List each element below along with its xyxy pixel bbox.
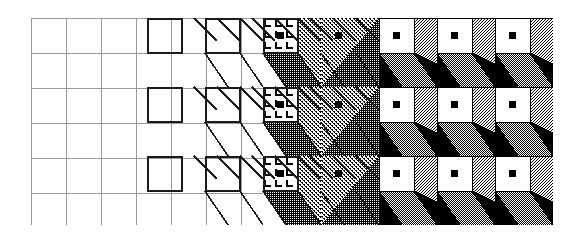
face-center-dot [451,170,458,177]
bold-square-outline [148,88,182,122]
face-center-dot [393,32,400,39]
depth-diagonal [240,122,263,156]
face-center-dot [277,170,284,177]
stage-block-solid-cube-c [495,87,553,156]
face-center-dot [335,101,342,108]
depth-diagonal [240,18,263,41]
progression-row-row-top [148,18,554,87]
face-center-dot [335,170,342,177]
stage-block-wireframe-square [148,157,182,191]
depth-diagonal [217,87,240,110]
depth-diagonal [240,53,263,87]
stage-block-hatched-face [252,87,321,156]
stage-block-wireframe-square [148,19,182,53]
stage-block-hatched-face [252,156,321,225]
stage-blocks-layer [148,18,554,225]
stage-block-solid-cube-b [437,156,495,225]
stage-block-solid-cube-b [437,18,495,87]
depth-diagonal [217,18,240,41]
bold-square-outline [148,157,182,191]
depth-diagonal [240,191,263,225]
stage-block-solid-cube-a [379,87,437,156]
depth-diagonal [205,122,228,156]
stage-block-solid-cube-a [379,156,437,225]
face-center-dot [393,170,400,177]
figure-root [0,0,580,238]
stage-block-wireframe-diagonals [194,87,263,156]
rendering-progression-grid [31,18,553,225]
face-center-dot [509,32,516,39]
depth-diagonal [205,191,228,225]
progression-svg [31,18,553,225]
progression-row-row-middle [148,87,554,156]
stage-block-wireframe-diagonals [194,156,263,225]
progression-row-row-bottom [148,156,554,225]
face-center-dot [451,32,458,39]
face-center-dot [509,170,516,177]
face-center-dot [451,101,458,108]
face-center-dot [277,32,284,39]
stage-block-solid-cube-c [495,18,553,87]
depth-diagonal [240,156,263,179]
depth-diagonal [240,87,263,110]
depth-diagonal [205,53,228,87]
stage-block-solid-cube-c [495,156,553,225]
stage-block-solid-cube-b [437,87,495,156]
stage-block-wireframe-square [148,88,182,122]
face-center-dot [335,32,342,39]
bold-square-outline [148,19,182,53]
face-center-dot [393,101,400,108]
depth-diagonal [217,156,240,179]
face-center-dot [277,101,284,108]
face-center-dot [509,101,516,108]
stage-block-solid-cube-a [379,18,437,87]
